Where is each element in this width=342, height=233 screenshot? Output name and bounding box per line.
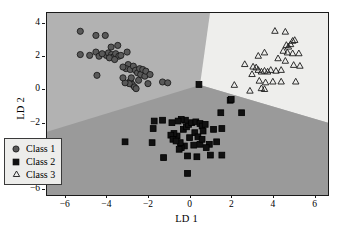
data-point (282, 58, 288, 64)
y-tick-label: −6 (16, 184, 40, 194)
data-point (118, 52, 124, 58)
data-point (200, 128, 206, 134)
data-point (290, 62, 296, 68)
x-tick-label: −6 (60, 200, 70, 210)
x-tick-mark (273, 195, 274, 198)
data-point (87, 52, 93, 58)
data-point (247, 87, 253, 93)
data-point (187, 135, 193, 141)
series-1 (77, 28, 171, 92)
data-points-layer (47, 13, 328, 195)
data-point (278, 78, 284, 84)
data-point (261, 49, 267, 55)
data-point (169, 120, 175, 126)
legend-label: Class 3 (23, 170, 55, 180)
data-point (122, 139, 128, 145)
data-point (219, 126, 225, 132)
legend-item-square[interactable]: Class 2 (9, 155, 55, 168)
data-point (175, 118, 181, 124)
legend-item-triangle[interactable]: Class 3 (9, 168, 55, 181)
data-point (93, 32, 99, 38)
triangle-marker-icon (9, 168, 23, 181)
data-point (231, 82, 237, 88)
x-tick-mark (148, 195, 149, 198)
data-point (196, 82, 202, 88)
data-point (124, 49, 130, 55)
data-point (262, 79, 268, 85)
data-point (255, 53, 261, 59)
data-point (228, 97, 234, 103)
data-point (293, 78, 299, 84)
data-point (135, 77, 141, 83)
data-point (149, 140, 155, 146)
data-point (115, 42, 121, 48)
data-point (112, 56, 118, 62)
data-point (218, 110, 224, 116)
data-point (150, 126, 156, 132)
data-point (185, 153, 191, 159)
data-point (289, 50, 295, 56)
x-tick-label: 0 (187, 200, 192, 210)
y-tick-mark (42, 89, 45, 90)
y-tick-mark (42, 189, 45, 190)
legend-label: Class 2 (23, 157, 55, 167)
data-point (199, 136, 205, 142)
data-point (249, 71, 255, 77)
data-point (102, 32, 108, 38)
x-tick-mark (65, 195, 66, 198)
series-3 (231, 28, 303, 94)
data-point (194, 154, 200, 160)
x-tick-mark (190, 195, 191, 198)
y-tick-mark (42, 56, 45, 57)
data-point (219, 152, 225, 158)
x-tick-mark (315, 195, 316, 198)
legend-item-circle[interactable]: Class 1 (9, 142, 55, 155)
scatter-plot-figure: −6−4−20246420−2−4−6 LD 1 LD 2 Class 1Cla… (0, 0, 342, 233)
data-point (151, 118, 157, 124)
x-tick-label: 6 (312, 200, 317, 210)
x-tick-label: 4 (271, 200, 276, 210)
y-tick-mark (42, 23, 45, 24)
data-point (128, 75, 134, 81)
data-point (176, 146, 182, 152)
x-tick-label: −2 (143, 200, 153, 210)
square-marker-icon (9, 155, 23, 168)
x-tick-mark (106, 195, 107, 198)
data-point (208, 152, 214, 158)
data-point (120, 64, 126, 70)
legend: Class 1Class 2Class 3 (4, 138, 62, 185)
x-tick-mark (231, 195, 232, 198)
data-point (145, 81, 151, 87)
data-point (203, 145, 209, 151)
data-point (77, 51, 83, 57)
data-point (173, 138, 179, 144)
data-point (77, 28, 83, 34)
data-point (278, 67, 284, 73)
data-point (202, 121, 208, 127)
data-point (214, 139, 220, 145)
data-point (191, 142, 197, 148)
data-point (256, 77, 262, 83)
data-point (120, 75, 126, 81)
data-point (282, 28, 288, 34)
data-point (99, 51, 105, 57)
y-tick-label: 2 (16, 51, 40, 61)
plot-area (46, 12, 329, 196)
y-tick-mark (42, 123, 45, 124)
data-point (270, 78, 276, 84)
data-point (211, 126, 217, 132)
x-tick-label: −4 (101, 200, 111, 210)
data-point (165, 80, 171, 86)
data-point (185, 170, 191, 176)
data-point (297, 62, 303, 68)
data-point (242, 61, 248, 67)
data-point (275, 55, 281, 61)
x-axis-label: LD 1 (46, 213, 327, 224)
data-point (94, 72, 100, 78)
legend-label: Class 1 (23, 144, 55, 154)
data-point (161, 155, 167, 161)
data-point (108, 44, 114, 50)
data-point (160, 117, 166, 123)
data-point (133, 86, 139, 92)
y-tick-label: 4 (16, 18, 40, 28)
